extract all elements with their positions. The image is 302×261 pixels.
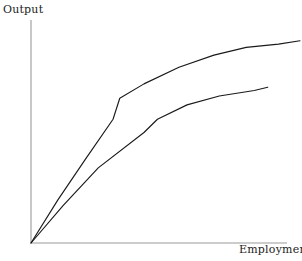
y-axis-label: Output: [3, 3, 43, 16]
upper-curve: [31, 41, 300, 243]
x-axis-label: Employment: [239, 243, 302, 256]
chart-plot-area: [0, 0, 302, 261]
lower-curve: [31, 87, 268, 243]
production-function-chart: Output Employment: [0, 0, 302, 261]
